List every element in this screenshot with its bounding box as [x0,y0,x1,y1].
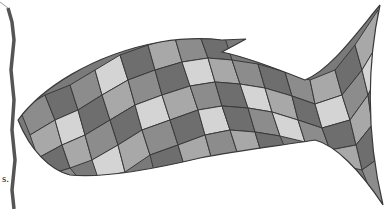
fragment-text: s. [2,172,9,184]
mosaic-fish-illustration: s. [0,0,387,209]
fish-graphic [0,0,387,209]
fish-body [0,0,387,209]
